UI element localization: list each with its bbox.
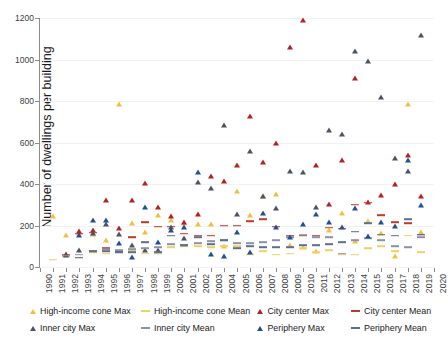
data-point [391,235,399,237]
data-point [208,222,214,227]
data-point [128,249,136,251]
data-point [50,214,56,219]
data-point [220,239,228,241]
data-point [259,218,267,220]
gridline [40,60,434,61]
x-tick-label: 2012 [332,274,342,293]
legend-item[interactable]: Periphery Mean [351,320,442,336]
legend-item[interactable]: City center Mean [351,303,442,319]
legend-item[interactable]: Inner city Max [30,320,141,336]
data-point [180,244,188,246]
data-point [287,234,293,239]
data-point [167,235,175,237]
data-point [286,253,294,255]
x-tick-label: 1997 [135,274,145,293]
data-point [142,229,148,234]
legend-item[interactable]: City center Max [257,303,351,319]
data-point [116,241,122,246]
data-point [246,245,254,247]
legend-item-label: High-income cone Max [40,306,131,316]
data-point [272,246,280,248]
data-point [313,204,319,209]
triangle-marker-icon [257,326,263,331]
dash-marker-icon [141,310,150,312]
data-point [299,244,307,246]
data-point [364,202,372,204]
x-tick-label: 2018 [411,274,421,293]
data-point [247,113,253,118]
data-point [377,214,385,216]
x-tick-label: 2003 [214,274,224,293]
data-point [194,245,202,247]
legend-item[interactable]: High-income cone Max [30,303,141,319]
x-tick-label: 2014 [359,274,369,293]
data-point [75,254,83,256]
data-point [221,253,227,258]
x-tick-mark [408,268,409,272]
data-point [286,246,294,248]
data-point [392,156,398,161]
data-point [351,231,359,233]
data-point [128,236,136,238]
data-point [116,225,122,230]
data-point [312,236,320,238]
x-tick-label: 2009 [293,274,303,293]
chart-legend: High-income cone MaxHigh-income cone Mea… [30,303,442,341]
data-point [312,252,320,254]
data-point [272,254,280,256]
data-point [405,158,411,163]
data-point [154,226,162,228]
data-point [259,246,267,248]
data-point [62,255,70,257]
data-point [221,178,227,183]
x-tick-mark [381,268,382,272]
data-point [129,221,135,226]
data-point [313,163,319,168]
data-point [299,234,307,236]
x-tick-label: 1998 [149,274,159,293]
legend-item[interactable]: Periphery Max [257,320,351,336]
data-point [194,236,202,238]
legend-item[interactable]: Inner city Mean [141,320,257,336]
data-point [300,18,306,23]
data-point [129,254,135,259]
x-tick-label: 1992 [70,274,80,293]
x-tick-label: 2020 [438,274,448,293]
x-tick-mark [66,268,67,272]
data-point [378,220,384,225]
data-point [364,223,372,225]
x-tick-mark [53,268,54,272]
x-tick-label: 2006 [254,274,264,293]
data-point [154,246,162,248]
data-point [90,230,96,235]
data-point [154,252,162,254]
x-tick-label: 2005 [241,274,251,293]
data-point [404,246,412,248]
data-point [234,163,240,168]
data-point [246,242,254,244]
data-point [221,122,227,127]
x-tick-mark [237,268,238,272]
legend-item[interactable]: High-income cone Mean [141,303,257,319]
data-point [89,251,97,253]
data-point [404,235,412,237]
x-tick-label: 2007 [267,274,277,293]
x-tick-label: 2010 [306,274,316,293]
dash-marker-icon [141,327,150,329]
data-point [208,186,214,191]
y-tick-label: 600 [6,138,34,148]
x-tick-mark [316,268,317,272]
data-point [155,240,161,245]
data-point [364,248,372,250]
data-point [391,245,399,247]
x-tick-mark [171,268,172,272]
data-point [365,58,371,63]
data-point [168,227,174,232]
data-point [313,212,319,217]
x-tick-label: 2008 [280,274,290,293]
x-tick-mark [421,268,422,272]
x-tick-label: 2017 [398,274,408,293]
x-tick-mark [250,268,251,272]
data-point [129,197,135,202]
data-point [208,251,214,256]
